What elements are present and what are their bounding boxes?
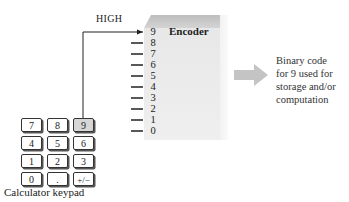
pin-2: 2 bbox=[149, 104, 157, 114]
key-2[interactable]: 2 bbox=[47, 154, 68, 168]
output-line: computation bbox=[276, 93, 349, 106]
arrowhead-icon bbox=[137, 30, 143, 35]
key-1[interactable]: 1 bbox=[21, 154, 42, 168]
pin-9: 9 bbox=[149, 27, 157, 37]
pin-4: 4 bbox=[149, 82, 157, 92]
pin-5: 5 bbox=[149, 71, 157, 81]
key-3[interactable]: 3 bbox=[73, 154, 94, 168]
output-line: storage and/or bbox=[276, 80, 349, 93]
encoder-title: Encoder bbox=[169, 25, 209, 37]
key-plus-minus[interactable]: +/− bbox=[73, 172, 94, 186]
output-line: for 9 used for bbox=[276, 67, 349, 80]
pin-6: 6 bbox=[149, 60, 157, 70]
pin-7: 7 bbox=[149, 49, 157, 59]
pin-1: 1 bbox=[149, 115, 157, 125]
key-9[interactable]: 9 bbox=[73, 118, 94, 132]
input-stubs bbox=[131, 43, 143, 131]
pin-3: 3 bbox=[149, 93, 157, 103]
output-line: Binary code bbox=[276, 54, 349, 67]
key-7[interactable]: 7 bbox=[21, 118, 42, 132]
key-0[interactable]: 0 bbox=[21, 172, 42, 186]
key-5[interactable]: 5 bbox=[47, 136, 68, 150]
key-decimal[interactable]: . bbox=[47, 172, 68, 186]
high-signal-wire bbox=[83, 32, 143, 118]
key-8[interactable]: 8 bbox=[47, 118, 68, 132]
output-arrow-icon bbox=[234, 64, 270, 86]
key-6[interactable]: 6 bbox=[73, 136, 94, 150]
encoder-side-face bbox=[220, 15, 228, 140]
keypad-caption: Calculator keypad bbox=[4, 186, 84, 198]
high-label: HIGH bbox=[96, 13, 122, 24]
pin-0: 0 bbox=[149, 126, 157, 136]
pin-8: 8 bbox=[149, 38, 157, 48]
output-description: Binary code for 9 used for storage and/o… bbox=[276, 54, 349, 106]
key-4[interactable]: 4 bbox=[21, 136, 42, 150]
